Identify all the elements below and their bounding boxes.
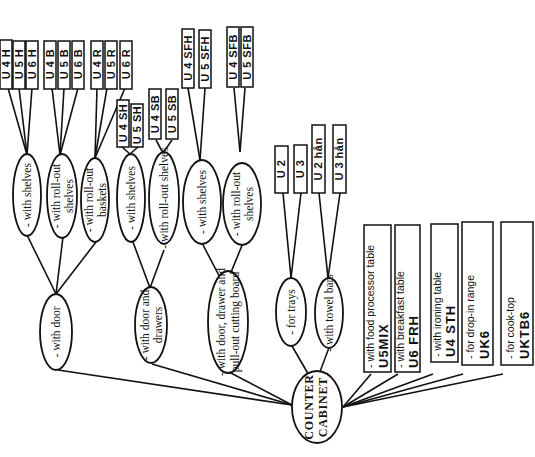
node-label: U 4 R — [91, 49, 103, 80]
connector-line — [283, 193, 291, 278]
node-label: U 4 SFH — [182, 35, 194, 81]
codes-drawers-rollout-shelves: U 4 SB U 5 SB — [149, 89, 178, 139]
node-label: U6 FRH — [406, 315, 421, 368]
node-label: U 2 hån — [312, 137, 324, 180]
special-cook-top: - for cook-top UKTB6 — [501, 222, 533, 365]
node-board-rollout-shelves: - with roll-out shelves — [223, 163, 261, 245]
special-food-processor-table: - with food processor table U5MIX — [364, 225, 391, 372]
node-label: - with door, drawer and — [215, 268, 228, 376]
connectors — [8, 88, 503, 407]
codes-with-towel-bars: U 2 hån U 3 hån — [312, 125, 346, 193]
connector-line — [234, 88, 240, 152]
connector-line — [130, 147, 138, 154]
special-ironing-table: - with ironing table U4 STH — [431, 224, 458, 362]
node-drawers-rollout-shelves: - with roll-out shelves — [149, 147, 179, 249]
node-label: U 2 — [275, 160, 287, 179]
node-label: COUNTER — [302, 374, 316, 440]
node-for-trays: - for trays — [276, 278, 306, 346]
node-label: - with shelves — [196, 170, 208, 234]
node-label: - with ironing table — [431, 272, 443, 357]
node-board-shelves: - with shelves — [183, 160, 221, 244]
connector-line — [19, 88, 27, 155]
node-label: U4 STH — [443, 305, 458, 357]
connector-line — [319, 193, 328, 278]
node-label: U 4 SFB — [227, 34, 239, 80]
node-ellipse — [223, 163, 261, 245]
node-label: - with shelves — [21, 163, 33, 227]
connector-line — [328, 193, 340, 278]
node-label: U 5 B — [58, 49, 70, 80]
node-label: U 3 — [294, 160, 306, 179]
connector-line — [240, 88, 245, 152]
node-label: U 6 H — [26, 49, 38, 80]
node-label: - with roll-out — [50, 163, 62, 228]
node-label: - with roll-out — [230, 171, 242, 236]
node-with-door-drawer-cutting-board: - with door, drawer and pull-out cutting… — [208, 268, 248, 376]
codes-drawers-shelves: U 4 SH U 5 SH — [117, 100, 143, 147]
node-label: - with roll-out — [83, 167, 95, 232]
node-label: pull-out cutting board — [229, 272, 242, 373]
node-label: U 5 SFB — [241, 34, 253, 80]
connector-line — [292, 346, 310, 377]
node-with-door-and-drawers: - with door and drawers — [135, 287, 167, 363]
node-label: - with breakfast table — [394, 271, 406, 368]
node-label: U 5 R — [105, 49, 117, 80]
node-label: UKTB6 — [517, 311, 532, 359]
connector-line — [27, 88, 32, 155]
node-label: - for trays — [285, 289, 298, 335]
node-label: CABINET — [316, 377, 330, 437]
node-drawers-shelves: - with shelves — [117, 154, 145, 242]
codes-board-shelves: U 4 SFH U 5 SFH — [182, 29, 211, 88]
node-label: - with shelves — [125, 166, 137, 230]
codes-board-rollout-shelves: U 4 SFB U 5 SFB — [227, 27, 253, 87]
node-label: - for drop-in range — [464, 275, 476, 359]
node-ellipse — [208, 271, 248, 373]
node-label: U 5 SB — [166, 95, 178, 133]
connector-line — [188, 88, 200, 160]
node-label: UK6 — [477, 330, 492, 359]
node-label: U 6 B — [72, 49, 84, 80]
connector-line — [8, 88, 27, 155]
connector-line — [133, 242, 150, 288]
node-label: U 5 SFH — [199, 36, 211, 82]
node-label: - with door — [50, 306, 62, 357]
codes-with-door-rollout-baskets: U 4 R U 5 R U 6 R — [91, 41, 132, 89]
node-label: U 4 H — [0, 49, 12, 80]
codes-with-door-rollout-shelves: U 4 B U 5 B U 6 B — [44, 41, 84, 89]
node-label: U 3 hån — [333, 137, 345, 180]
connector-line — [343, 374, 463, 407]
node-label: - with towel bars — [323, 274, 335, 352]
node-with-door: - with door — [40, 294, 72, 370]
node-label: - for cook-top — [504, 297, 516, 359]
connector-line — [200, 88, 205, 160]
node-label: shelves — [243, 187, 255, 221]
node-label: drawers — [152, 306, 164, 343]
node-label: U 5 H — [13, 49, 25, 80]
special-breakfast-table: - with breakfast table U6 FRH — [394, 225, 421, 372]
special-drop-in-range: - for drop-in range UK6 — [462, 222, 493, 365]
node-label: - with food processor table — [364, 245, 376, 368]
node-label: baskets — [96, 183, 108, 217]
node-label: U 5 SH — [131, 106, 143, 144]
codes-with-door-shelves: U 4 H U 5 H U 6 H — [0, 40, 38, 89]
node-with-door-shelves: - with shelves — [13, 154, 41, 236]
node-label: U 4 SH — [117, 104, 129, 142]
node-label: - with door and — [139, 289, 151, 360]
connector-line — [291, 193, 301, 278]
node-with-door-rollout-baskets: - with roll-out baskets — [81, 158, 109, 242]
connector-line — [122, 147, 130, 154]
node-label: U 4 SB — [149, 95, 161, 133]
node-with-door-rollout-shelves: - with roll-out shelves — [47, 154, 77, 238]
counter-cabinet-tree-diagram: COUNTER CABINET - with door - with shelv… — [0, 0, 535, 457]
root-node-counter-cabinet: COUNTER CABINET — [292, 371, 342, 443]
node-label: U 4 B — [44, 49, 56, 80]
node-label: shelves — [63, 179, 75, 213]
node-label: U5MIX — [376, 323, 391, 368]
connector-line — [150, 250, 164, 288]
connector-line — [52, 88, 60, 155]
node-label: - with roll-out shelves — [158, 147, 170, 249]
node-label: U 6 R — [120, 49, 132, 80]
connector-line — [27, 235, 56, 294]
node-with-towel-bars: - with towel bars — [315, 274, 343, 352]
codes-for-trays: U 2 U 3 — [275, 145, 307, 193]
